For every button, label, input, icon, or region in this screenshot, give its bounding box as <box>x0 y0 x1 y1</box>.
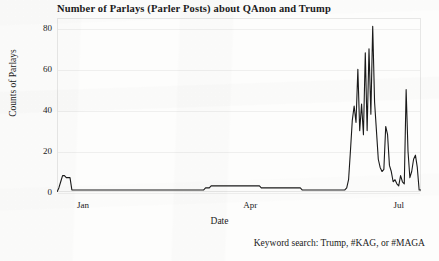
x-tick-label-Apr: Apr <box>243 200 257 210</box>
y-tick-label-20: 20 <box>43 146 52 156</box>
series-polyline <box>57 26 421 192</box>
x-axis-tick-labels: JanAprJul <box>0 200 439 214</box>
y-tick-label-40: 40 <box>43 105 52 115</box>
x-axis-title: Date <box>0 216 439 226</box>
y-axis-tick-labels: 020406080 <box>22 18 52 192</box>
line-series <box>57 18 421 192</box>
chart-footnote: Keyword search: Trump, #KAG, or #MAGA <box>0 238 425 248</box>
gridline-y-0 <box>58 193 420 194</box>
x-tick-label-Jul: Jul <box>393 200 404 210</box>
chart-title: Number of Parlays (Parler Posts) about Q… <box>57 3 417 14</box>
y-tick-label-60: 60 <box>43 64 52 74</box>
y-tick-label-0: 0 <box>48 187 53 197</box>
y-axis-title: Counts of Parlays <box>8 18 18 148</box>
x-tick-label-Jan: Jan <box>77 200 89 210</box>
y-tick-label-80: 80 <box>43 23 52 33</box>
